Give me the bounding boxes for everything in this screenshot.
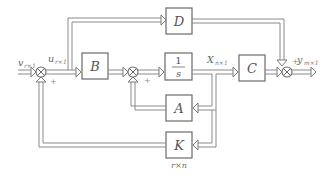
block-A-label: A: [173, 101, 183, 116]
integrator-denominator: s: [176, 68, 181, 79]
state-label: X: [206, 54, 215, 65]
state-subscript: n×1: [215, 59, 228, 66]
block-integrator: 1 s: [165, 53, 192, 80]
control-label: u: [48, 53, 54, 64]
block-K-label: K: [173, 138, 185, 153]
block-B-label: B: [89, 59, 100, 74]
block-D-label: D: [173, 14, 185, 29]
sum2-plus-sign: +: [144, 76, 151, 85]
output-label: y: [296, 54, 303, 65]
block-D: D: [166, 8, 192, 34]
block-C: C: [239, 55, 265, 81]
block-A: A: [166, 95, 192, 121]
block-B: B: [82, 53, 108, 79]
sum1-plus-sign: +: [50, 77, 57, 86]
block-K-dimension: r×n: [171, 161, 187, 170]
integrator-numerator: 1: [175, 55, 181, 66]
input-signal-v: v r×1: [18, 57, 36, 77]
input-subscript: r×1: [24, 62, 36, 69]
state-signal-X: X n×1: [192, 54, 238, 150]
block-K: K r×n: [166, 132, 192, 170]
output-subscript: m×1: [304, 59, 319, 66]
state-space-block-diagram: v r×1 + u r×1 B + D 1: [0, 0, 328, 176]
control-subscript: r×1: [55, 58, 67, 65]
block-C-label: C: [247, 61, 257, 76]
